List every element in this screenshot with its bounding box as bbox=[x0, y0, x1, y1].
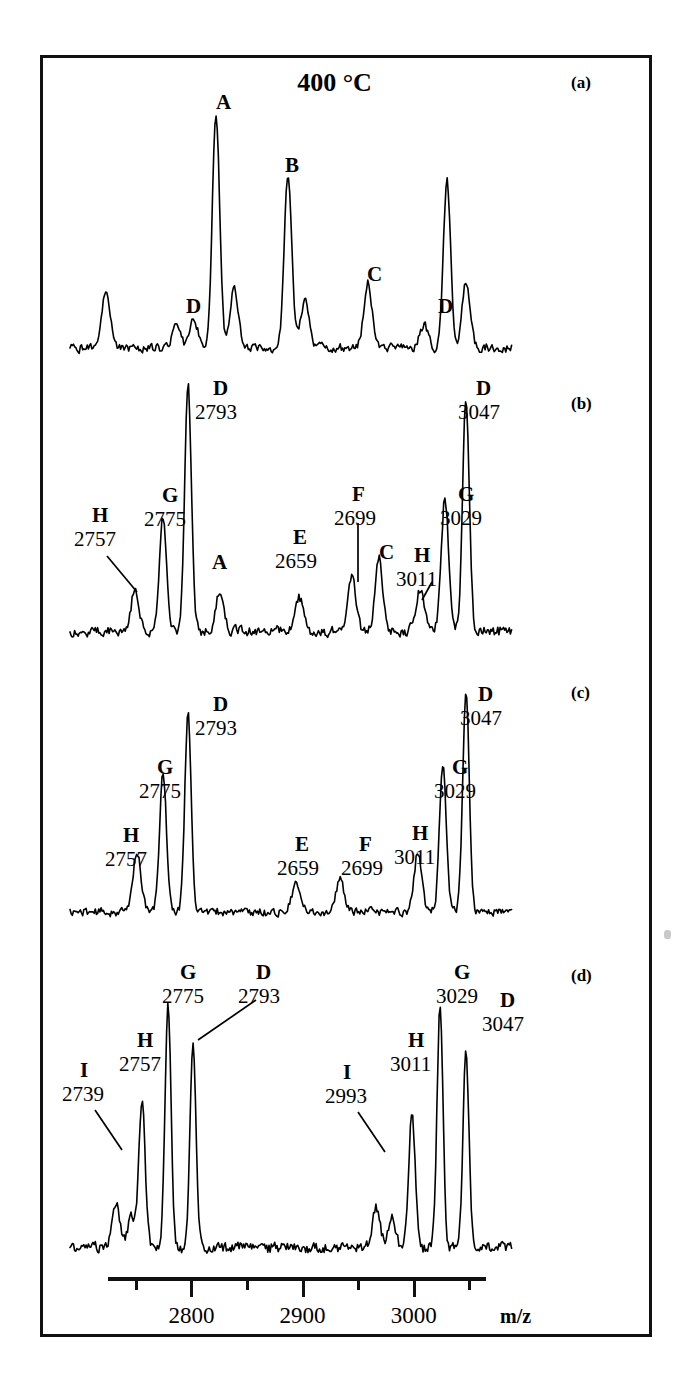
scan-artifact-speck bbox=[664, 930, 671, 939]
peak-label-mass: 2757 bbox=[105, 849, 147, 870]
peak-label-letter: D bbox=[186, 296, 201, 317]
peak-label-letter: A bbox=[216, 92, 231, 113]
peak-label-mass: 3047 bbox=[458, 402, 500, 423]
peak-label-mass: 2775 bbox=[144, 509, 186, 530]
peak-label-letter: C bbox=[367, 264, 382, 285]
peak-label-letter: G bbox=[157, 757, 173, 778]
x-axis-line bbox=[108, 1277, 486, 1281]
peak-label-mass: 3029 bbox=[436, 986, 478, 1007]
peak-label-mass: 2699 bbox=[334, 508, 376, 529]
peak-label-letter: A bbox=[212, 552, 227, 573]
peak-label-letter: G bbox=[458, 484, 474, 505]
x-axis-minor-tick bbox=[357, 1280, 360, 1290]
peak-label-letter: G bbox=[452, 757, 468, 778]
peak-label-mass: 2739 bbox=[62, 1084, 104, 1105]
panel-tag-a: (a) bbox=[571, 74, 591, 91]
peak-label-mass: 2775 bbox=[139, 781, 181, 802]
peak-label-mass: 3011 bbox=[394, 847, 435, 868]
peak-label-mass: 3029 bbox=[434, 781, 476, 802]
peak-label-mass: 3011 bbox=[396, 569, 437, 590]
peak-label-letter: F bbox=[352, 484, 365, 505]
x-axis-major-tick bbox=[413, 1280, 416, 1297]
peak-label-letter: F bbox=[359, 834, 372, 855]
peak-label-letter: B bbox=[285, 155, 299, 176]
figure-frame bbox=[40, 55, 652, 1337]
x-axis-minor-tick bbox=[468, 1280, 471, 1290]
peak-label-mass: 3029 bbox=[440, 508, 482, 529]
figure-root: 400 °C (a) (b) (c) (d) ABCDDH2757G2775D2… bbox=[0, 0, 689, 1387]
peak-label-mass: 2993 bbox=[325, 1086, 367, 1107]
peak-label-mass: 2793 bbox=[195, 718, 237, 739]
peak-label-mass: 2699 bbox=[341, 858, 383, 879]
peak-label-mass: 2757 bbox=[119, 1054, 161, 1075]
peak-label-letter: H bbox=[408, 1030, 424, 1051]
peak-label-letter: G bbox=[454, 962, 470, 983]
peak-label-letter: D bbox=[478, 684, 493, 705]
peak-label-letter: D bbox=[476, 378, 491, 399]
x-axis-tick-label: 3000 bbox=[384, 1303, 444, 1329]
peak-label-mass: 2793 bbox=[238, 986, 280, 1007]
peak-label-letter: H bbox=[123, 825, 139, 846]
peak-label-letter: H bbox=[414, 545, 430, 566]
peak-label-letter: I bbox=[343, 1062, 351, 1083]
panel-tag-c: (c) bbox=[571, 684, 590, 701]
peak-label-letter: H bbox=[92, 505, 108, 526]
peak-label-letter: D bbox=[438, 296, 453, 317]
peak-label-letter: G bbox=[180, 962, 196, 983]
peak-label-letter: C bbox=[379, 542, 394, 563]
peak-label-letter: G bbox=[162, 485, 178, 506]
peak-label-mass: 2793 bbox=[195, 402, 237, 423]
peak-label-letter: I bbox=[80, 1060, 88, 1081]
x-axis-major-tick bbox=[190, 1280, 193, 1297]
peak-label-mass: 3047 bbox=[482, 1014, 524, 1035]
peak-label-letter: H bbox=[412, 823, 428, 844]
peak-label-letter: D bbox=[213, 694, 228, 715]
x-axis-tick-label: 2900 bbox=[273, 1303, 333, 1329]
panel-tag-d: (d) bbox=[571, 967, 592, 984]
peak-label-mass: 2659 bbox=[275, 551, 317, 572]
peak-label-mass: 3011 bbox=[390, 1054, 431, 1075]
x-axis-label: m/z bbox=[500, 1305, 531, 1328]
x-axis-minor-tick bbox=[135, 1280, 138, 1290]
peak-label-letter: E bbox=[295, 834, 309, 855]
peak-label-mass: 3047 bbox=[460, 708, 502, 729]
peak-label-mass: 2757 bbox=[74, 529, 116, 550]
x-axis-major-tick bbox=[302, 1280, 305, 1297]
peak-label-mass: 2659 bbox=[277, 858, 319, 879]
peak-label-mass: 2775 bbox=[162, 986, 204, 1007]
x-axis-minor-tick bbox=[246, 1280, 249, 1290]
panel-tag-b: (b) bbox=[571, 395, 592, 412]
peak-label-letter: D bbox=[256, 962, 271, 983]
peak-label-letter: H bbox=[137, 1030, 153, 1051]
peak-label-letter: E bbox=[293, 527, 307, 548]
x-axis-tick-label: 2800 bbox=[161, 1303, 221, 1329]
peak-label-letter: D bbox=[213, 378, 228, 399]
peak-label-letter: D bbox=[500, 990, 515, 1011]
